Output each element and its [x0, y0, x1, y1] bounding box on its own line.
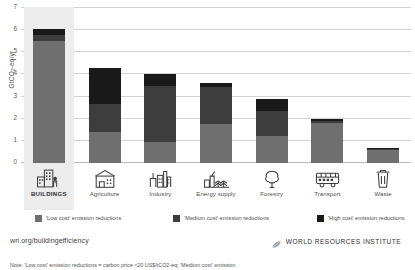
industry-icon: [148, 163, 173, 189]
y-tick-3: 3: [0, 92, 17, 99]
bar-segment: [144, 74, 176, 85]
bar-agriculture[interactable]: [89, 68, 121, 163]
chart-footer: wri.org/buildingefficiency WORLD RESOURC…: [10, 236, 405, 252]
bar-energy-supply[interactable]: [200, 83, 232, 163]
bar-waste[interactable]: [367, 148, 399, 163]
bar-segment: [200, 87, 232, 125]
x-category-transport[interactable]: Transport: [304, 163, 350, 197]
x-category-buildings[interactable]: BUILDINGS: [26, 163, 72, 197]
bar-segment: [144, 86, 176, 142]
bar-segment: [89, 68, 121, 105]
y-tick-1: 1: [0, 136, 17, 143]
x-category-label: Agriculture: [90, 191, 120, 197]
forestry-icon: [263, 163, 281, 189]
bar-segment: [33, 41, 65, 163]
legend-swatch: [173, 215, 180, 222]
agriculture-icon: [93, 163, 117, 189]
bar-segment: [144, 142, 176, 163]
bar-segment: [33, 35, 65, 42]
chart-note: Note: 'Low cost' emission reductions = c…: [10, 262, 410, 269]
bar-segment: [256, 111, 288, 136]
bar-segment: [256, 99, 288, 111]
y-tick-0: 0: [0, 158, 17, 165]
legend-item-0[interactable]: 'Low cost' emission reductions: [35, 215, 121, 222]
x-category-energy-supply[interactable]: Energy supply: [193, 163, 239, 197]
x-category-label: Energy supply: [196, 191, 235, 197]
legend-label: 'Low cost' emission reductions: [46, 215, 121, 221]
legend-label: 'Medium cost' emission reductions: [184, 215, 269, 221]
emissions-reduction-chart: GtCO2-eq/yr 76543210 BUILDINGSAgricultur…: [0, 0, 415, 270]
bar-industry[interactable]: [144, 74, 176, 163]
legend-item-2[interactable]: 'High cost' emission reductions: [317, 215, 404, 222]
chart-legend: 'Low cost' emission reductions'Medium co…: [21, 212, 411, 224]
x-category-label: Industry: [149, 191, 171, 197]
wri-branding: WORLD RESOURCES INSTITUTE: [271, 236, 401, 247]
bar-segment: [256, 136, 288, 163]
footer-url[interactable]: wri.org/buildingefficiency: [10, 237, 89, 244]
y-tick-2: 2: [0, 114, 17, 121]
x-category-waste[interactable]: Waste: [360, 163, 406, 197]
bar-transport[interactable]: [311, 119, 343, 163]
x-axis-categories: BUILDINGSAgricultureIndustryEnergy suppl…: [21, 163, 411, 210]
y-tick-4: 4: [0, 69, 17, 76]
waste-icon: [375, 163, 391, 189]
legend-swatch: [317, 215, 324, 222]
buildings-icon: [36, 163, 62, 189]
bar-segment: [89, 132, 121, 163]
x-category-agriculture[interactable]: Agriculture: [82, 163, 128, 197]
bar-buildings[interactable]: [33, 29, 65, 163]
bar-segment: [311, 123, 343, 163]
bar-forestry[interactable]: [256, 99, 288, 163]
bar-segment: [89, 104, 121, 132]
bar-segment: [367, 150, 399, 163]
energy-supply-icon: [203, 163, 230, 189]
x-category-industry[interactable]: Industry: [137, 163, 183, 197]
y-tick-6: 6: [0, 25, 17, 32]
x-category-label: Transport: [314, 191, 340, 197]
y-tick-5: 5: [0, 47, 17, 54]
bar-series-layer: [21, 7, 411, 163]
x-category-forestry[interactable]: Forestry: [249, 163, 295, 197]
legend-swatch: [35, 215, 42, 222]
wri-leaf-logo-icon: [271, 236, 282, 247]
x-category-label: Waste: [375, 191, 392, 197]
y-tick-7: 7: [0, 3, 17, 10]
legend-label: 'High cost' emission reductions: [328, 215, 404, 221]
x-category-label: BUILDINGS: [31, 191, 67, 197]
wri-name: WORLD RESOURCES INSTITUTE: [286, 238, 401, 245]
legend-item-1[interactable]: 'Medium cost' emission reductions: [173, 215, 269, 222]
bar-segment: [200, 124, 232, 163]
transport-icon: [314, 163, 341, 189]
x-category-label: Forestry: [260, 191, 283, 197]
